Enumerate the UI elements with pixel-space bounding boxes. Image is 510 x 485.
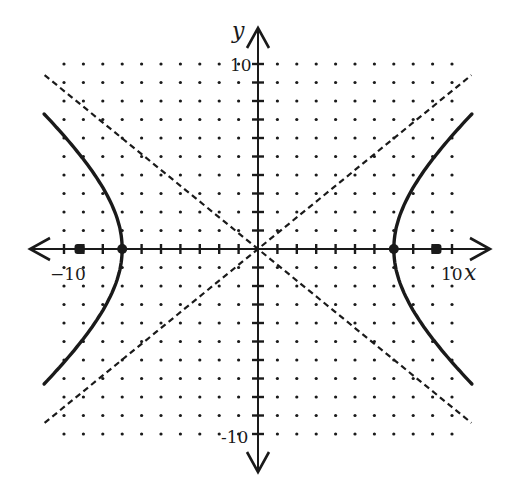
grid-dot <box>62 395 65 398</box>
grid-dot <box>295 99 298 102</box>
grid-dot <box>315 229 318 232</box>
grid-dot <box>353 414 356 417</box>
grid-dot <box>276 377 279 380</box>
grid-dot <box>412 118 415 121</box>
grid-dot <box>373 321 376 324</box>
grid-dot <box>179 173 182 176</box>
grid-dot <box>198 321 201 324</box>
grid-dot <box>315 395 318 398</box>
grid-dot <box>412 432 415 435</box>
grid-dot <box>82 210 85 213</box>
grid-dot <box>412 136 415 139</box>
grid-dot <box>295 303 298 306</box>
grid-dot <box>373 358 376 361</box>
grid-dot <box>82 173 85 176</box>
grid-dot <box>431 303 434 306</box>
grid-dot <box>315 99 318 102</box>
grid-dot <box>431 414 434 417</box>
grid-dot <box>101 358 104 361</box>
grid-dot <box>412 99 415 102</box>
grid-dot <box>62 81 65 84</box>
grid-dot <box>353 229 356 232</box>
grid-dot <box>315 321 318 324</box>
grid-dot <box>450 99 453 102</box>
grid-dot <box>315 266 318 269</box>
grid-dot <box>237 303 240 306</box>
grid-dot <box>431 210 434 213</box>
grid-dot <box>62 414 65 417</box>
grid-dot <box>62 284 65 287</box>
grid-dot <box>392 192 395 195</box>
grid-dot <box>237 192 240 195</box>
grid-dot <box>295 118 298 121</box>
grid-dot <box>392 118 395 121</box>
grid-dot <box>101 340 104 343</box>
grid-dot <box>159 229 162 232</box>
grid-dot <box>62 340 65 343</box>
grid-dot <box>140 432 143 435</box>
grid-dot <box>412 340 415 343</box>
grid-dot <box>198 340 201 343</box>
grid-dot <box>276 155 279 158</box>
grid-dot <box>295 432 298 435</box>
grid-dot <box>101 266 104 269</box>
vertex-point <box>389 244 399 254</box>
grid-dot <box>295 229 298 232</box>
grid-dot <box>431 192 434 195</box>
grid-dot <box>334 155 337 158</box>
vertex-point <box>117 244 127 254</box>
grid-dot <box>450 155 453 158</box>
x-neg-tick-label: −10 <box>50 264 86 284</box>
grid-dot <box>218 62 221 65</box>
grid-dot <box>82 414 85 417</box>
grid-dot <box>412 377 415 380</box>
grid-dot <box>373 377 376 380</box>
grid-dot <box>62 321 65 324</box>
grid-dot <box>373 395 376 398</box>
grid-dot <box>218 377 221 380</box>
grid-dot <box>295 81 298 84</box>
grid-dot <box>431 395 434 398</box>
grid-dot <box>373 118 376 121</box>
grid-dot <box>237 321 240 324</box>
grid-dot <box>198 358 201 361</box>
grid-dot <box>198 99 201 102</box>
grid-dot <box>450 192 453 195</box>
y-pos-tick-label: 10 <box>230 55 252 75</box>
grid-dot <box>179 136 182 139</box>
grid-dot <box>82 81 85 84</box>
grid-dot <box>101 432 104 435</box>
grid-dot <box>353 340 356 343</box>
grid-dot <box>121 340 124 343</box>
grid-dot <box>237 266 240 269</box>
grid-dot <box>121 432 124 435</box>
grid-dot <box>121 118 124 121</box>
grid-dot <box>353 321 356 324</box>
grid-dot <box>140 192 143 195</box>
grid-dot <box>140 414 143 417</box>
grid-dot <box>82 432 85 435</box>
grid-dot <box>140 284 143 287</box>
grid-dot <box>412 395 415 398</box>
grid-dot <box>431 358 434 361</box>
grid-dot <box>121 303 124 306</box>
grid-dot <box>353 358 356 361</box>
grid-dot <box>412 321 415 324</box>
grid-dot <box>315 210 318 213</box>
grid-dot <box>315 81 318 84</box>
grid-dot <box>218 266 221 269</box>
grid-dot <box>295 192 298 195</box>
grid-dot <box>334 81 337 84</box>
grid-dot <box>392 284 395 287</box>
x-pos-tick-label: 10 <box>441 264 463 284</box>
grid-dot <box>159 358 162 361</box>
grid-dot <box>101 210 104 213</box>
grid-dot <box>431 284 434 287</box>
grid-dot <box>82 358 85 361</box>
grid-dot <box>276 340 279 343</box>
grid-dot <box>334 414 337 417</box>
grid-dot <box>373 266 376 269</box>
grid-dot <box>412 358 415 361</box>
grid-dot <box>198 229 201 232</box>
grid-dot <box>353 192 356 195</box>
